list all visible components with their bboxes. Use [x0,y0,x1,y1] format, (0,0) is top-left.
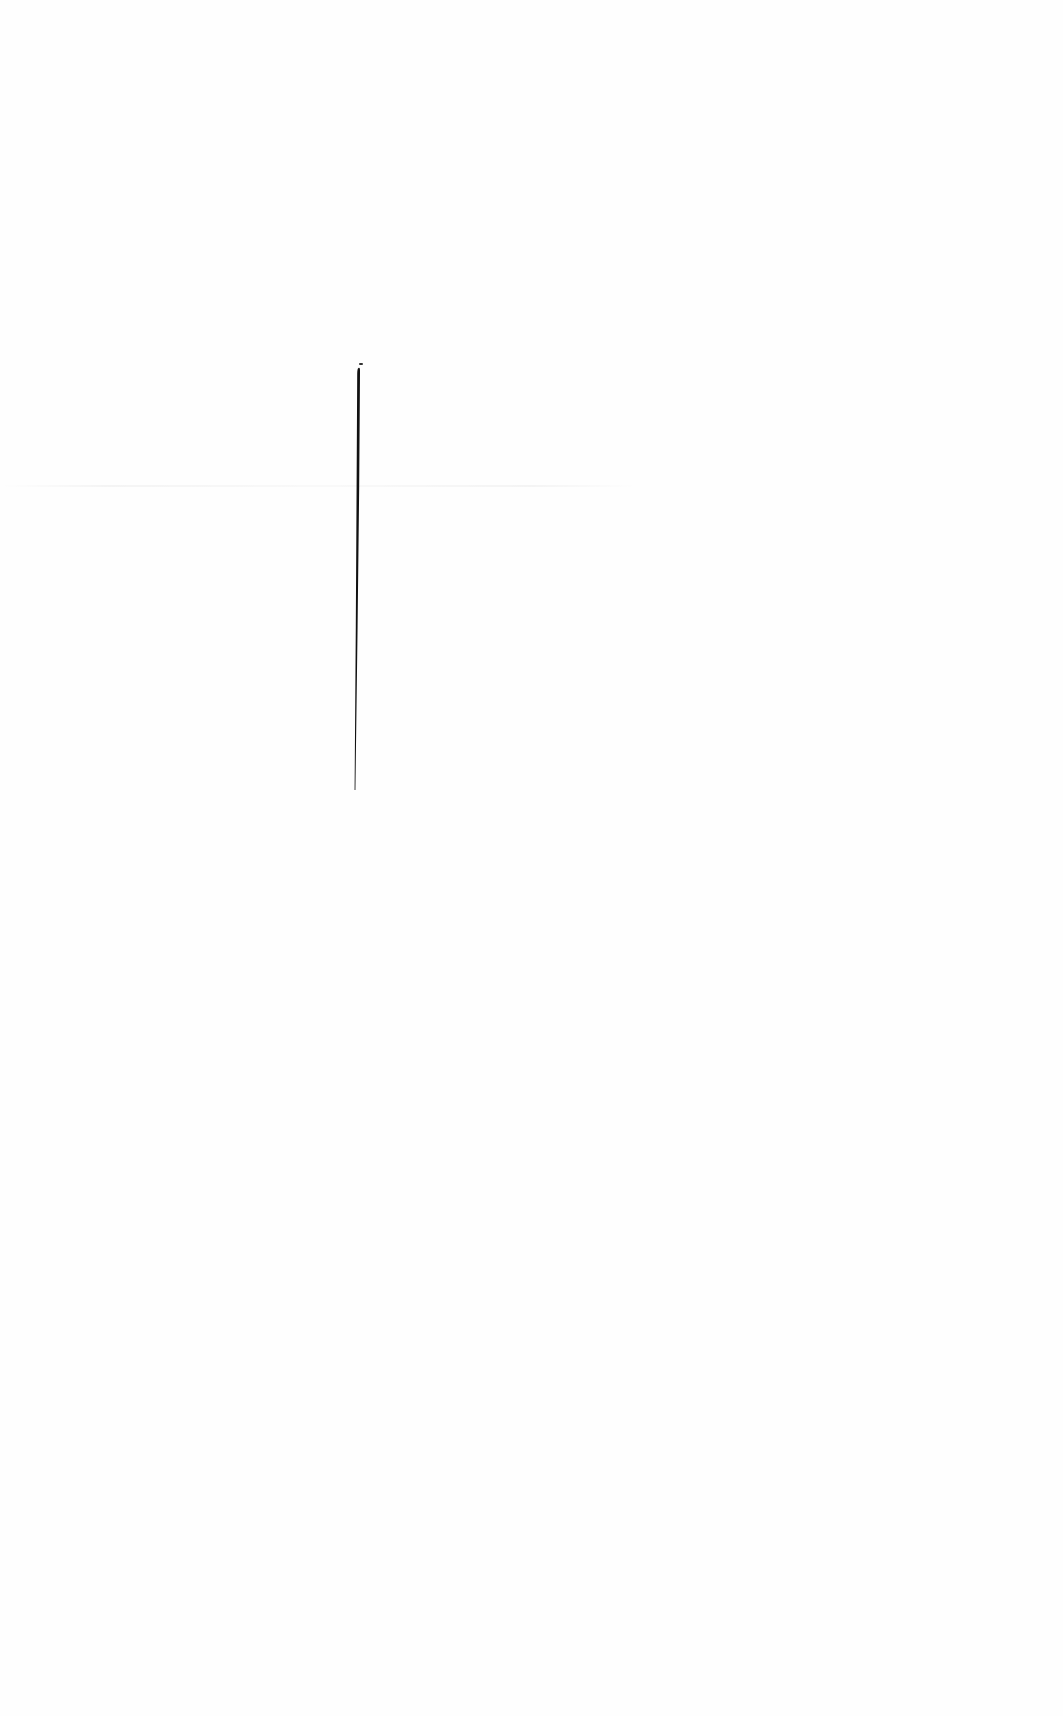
blank-canvas [0,0,1063,1716]
faint-artifact [0,485,1063,487]
vertical-stroke [353,366,361,792]
stroke-tip-mark [359,363,363,365]
